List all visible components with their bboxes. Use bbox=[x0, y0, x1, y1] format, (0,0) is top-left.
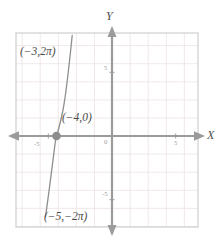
y-tick-label-negative: -5 bbox=[102, 191, 107, 198]
x-tick-label-negative: -5 bbox=[34, 141, 39, 148]
graph-figure: Y X (−3,2π) (−4,0) (−5,−2π) 5 -5 -5 0 5 bbox=[0, 0, 224, 239]
y-tick-label-positive: 5 bbox=[104, 65, 107, 72]
coordinate-plane-svg bbox=[0, 0, 224, 239]
x-tick-label-positive: 5 bbox=[174, 140, 177, 147]
annotation-label-origin-point: (−4,0) bbox=[62, 112, 92, 124]
y-axis-label: Y bbox=[106, 10, 113, 22]
annotation-label-lower: (−5,−2π) bbox=[44, 211, 87, 223]
annotation-label-upper: (−3,2π) bbox=[20, 46, 56, 58]
x-tick-label-origin: 0 bbox=[104, 139, 107, 146]
plotted-point-marker bbox=[52, 132, 61, 141]
x-axis-label: X bbox=[207, 129, 214, 141]
